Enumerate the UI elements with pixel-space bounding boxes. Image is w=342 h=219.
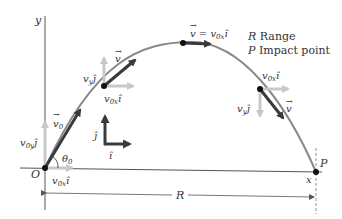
y-axis-label: y (34, 14, 42, 27)
rising-velocity-arrow-glyph: → (115, 47, 122, 56)
legend-item-range: R Range (247, 30, 296, 43)
origin-label: O (31, 168, 40, 181)
rising-point (101, 83, 107, 89)
rising-point-vectors: v → vyĵ v0xî (83, 47, 135, 106)
launch-angle-label: θ0 (62, 153, 73, 166)
apex-point (180, 40, 186, 46)
unit-j-label: ĵ (92, 130, 98, 141)
falling-vy-label: vyĵ (237, 103, 251, 116)
unit-i-label: î (109, 150, 113, 161)
launch-vectors: v0 → v0yĵ v0xî θ0 (20, 110, 80, 188)
range-label: R (175, 189, 184, 202)
launch-vy-label: v0yĵ (20, 137, 38, 150)
falling-point (257, 86, 263, 92)
falling-velocity-arrow-glyph: → (286, 97, 293, 106)
projectile-diagram: y x O R v0 → v0yĵ v0xî θ0 (0, 0, 342, 219)
launch-vx-label: v0xî (52, 175, 70, 188)
launch-velocity-label: v0 (53, 118, 64, 131)
apex-velocity-arrow-glyph: → (190, 21, 197, 30)
legend-item-impact: P Impact point (247, 44, 331, 57)
launch-velocity-arrow-glyph: → (53, 110, 60, 119)
rising-vx-label: v0xî (104, 93, 122, 106)
impact-label: P (319, 157, 328, 170)
impact-point (313, 169, 319, 175)
apex-velocity-vector (183, 43, 210, 44)
origin-point (42, 165, 48, 171)
legend: R Range P Impact point (247, 30, 331, 57)
rising-vy-label: vyĵ (83, 73, 97, 86)
x-axis-label: x (306, 174, 312, 185)
falling-vx-label: v0xî (262, 70, 280, 83)
range-indicator: R (46, 189, 314, 202)
unit-vectors: ĵ î (92, 117, 129, 161)
